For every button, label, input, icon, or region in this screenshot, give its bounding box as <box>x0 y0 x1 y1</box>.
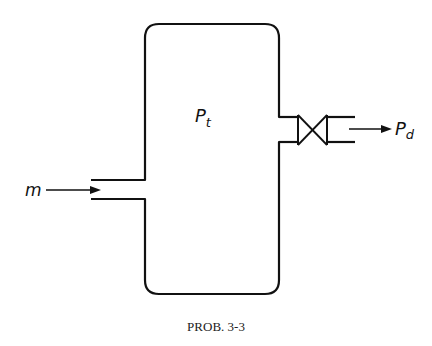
outlet-arrow-icon <box>349 125 392 133</box>
valve-icon <box>298 115 327 145</box>
outlet-pressure-sub: d <box>406 127 415 142</box>
inlet-arrow-icon <box>46 186 101 194</box>
tank-outline <box>145 24 279 294</box>
outlet-pressure-label: Pd <box>395 118 415 142</box>
outlet-pressure-main: P <box>395 118 406 139</box>
inlet-label: m <box>25 180 42 200</box>
tank-pressure-sub: t <box>206 115 212 130</box>
figure-caption: PROB. 3-3 <box>187 319 245 334</box>
tank-pressure-label: Pt <box>195 105 212 130</box>
tank-pressure-main: P <box>195 105 206 126</box>
outlet-stub <box>279 117 298 142</box>
diagram-canvas: m Pt Pd PROB. 3-3 <box>0 0 432 346</box>
